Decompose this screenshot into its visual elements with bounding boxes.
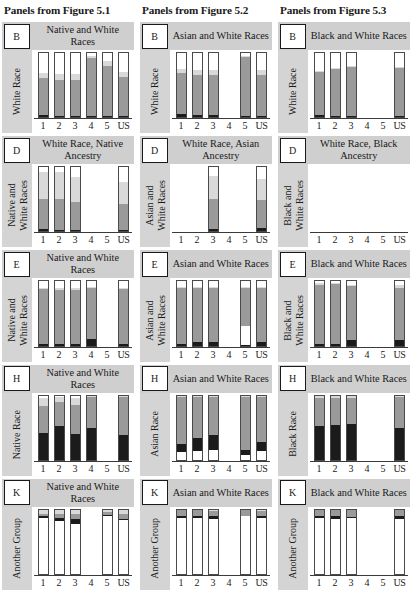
stacked-bar[interactable]: [86, 52, 97, 118]
stacked-bar[interactable]: [346, 52, 357, 118]
x-axis-ticks: 12345US: [172, 233, 270, 247]
stacked-bar[interactable]: [86, 280, 97, 346]
stacked-bar[interactable]: [346, 395, 357, 461]
stacked-bar[interactable]: [330, 509, 341, 575]
bar-segment-white: [347, 53, 356, 66]
x-tick-1: 1: [314, 119, 325, 133]
bar-segment-black: [257, 116, 266, 117]
bar-slot-4: [362, 395, 373, 461]
stacked-bar[interactable]: [54, 509, 65, 575]
x-axis-ticks: 12345US: [34, 119, 132, 133]
stacked-bar[interactable]: [70, 166, 81, 232]
stacked-bar[interactable]: [38, 166, 49, 232]
bar-segment-white: [119, 53, 128, 72]
stacked-bar[interactable]: [54, 395, 65, 461]
x-tick-5: 5: [102, 348, 113, 362]
bar-segment-light: [209, 176, 218, 199]
bar-slot-us: [256, 52, 267, 118]
stacked-bar[interactable]: [394, 52, 405, 118]
stacked-bar[interactable]: [102, 509, 113, 575]
stacked-bar[interactable]: [240, 280, 251, 346]
stacked-bar[interactable]: [70, 280, 81, 346]
stacked-bar[interactable]: [70, 395, 81, 461]
stacked-bar[interactable]: [192, 280, 203, 346]
bar-segment-light: [257, 179, 266, 200]
panel-title: Black and White Races: [310, 365, 411, 393]
x-tick-2: 2: [330, 462, 341, 476]
stacked-bar[interactable]: [330, 52, 341, 118]
stacked-bar[interactable]: [314, 395, 325, 461]
stacked-bar[interactable]: [208, 52, 219, 118]
x-tick-us: US: [394, 348, 405, 362]
stacked-bar[interactable]: [54, 166, 65, 232]
stacked-bar[interactable]: [256, 280, 267, 346]
stacked-bar[interactable]: [346, 509, 357, 575]
stacked-bar[interactable]: [330, 395, 341, 461]
bar-segment-black: [331, 425, 340, 460]
bar-slot-2: [54, 166, 65, 232]
stacked-bar[interactable]: [208, 509, 219, 575]
stacked-bar[interactable]: [394, 509, 405, 575]
bar-segment-gray: [395, 397, 404, 428]
stacked-bar[interactable]: [394, 280, 405, 346]
stacked-bar[interactable]: [346, 280, 357, 346]
stacked-bar[interactable]: [70, 509, 81, 575]
bar-segment-black: [103, 116, 112, 117]
stacked-bar[interactable]: [394, 395, 405, 461]
stacked-bar[interactable]: [70, 52, 81, 118]
bar-segment-black: [119, 116, 128, 117]
stacked-bar[interactable]: [176, 395, 187, 461]
stacked-bar[interactable]: [240, 509, 251, 575]
stacked-bar[interactable]: [208, 395, 219, 461]
stacked-bar[interactable]: [208, 166, 219, 232]
stacked-bar[interactable]: [192, 52, 203, 118]
bar-group: [310, 52, 408, 119]
stacked-bar[interactable]: [330, 280, 341, 346]
stacked-bar[interactable]: [314, 52, 325, 118]
bar-slot-1: [176, 509, 187, 575]
stacked-bar[interactable]: [192, 509, 203, 575]
stacked-bar[interactable]: [54, 52, 65, 118]
stacked-bar[interactable]: [176, 509, 187, 575]
plot-area: 12345US: [32, 164, 134, 247]
stacked-bar[interactable]: [192, 395, 203, 461]
stacked-bar[interactable]: [54, 280, 65, 346]
stacked-bar[interactable]: [118, 52, 129, 118]
x-tick-1: 1: [314, 462, 325, 476]
stacked-bar[interactable]: [314, 509, 325, 575]
x-tick-1: 1: [38, 119, 49, 133]
plot-wrapper: Another Group12345US: [140, 507, 272, 590]
stacked-bar[interactable]: [176, 52, 187, 118]
stacked-bar[interactable]: [256, 166, 267, 232]
bar-segment-white: [331, 53, 340, 68]
bar-segment-black: [39, 229, 48, 231]
stacked-bar[interactable]: [38, 52, 49, 118]
x-tick-4: 4: [362, 462, 373, 476]
stacked-bar[interactable]: [86, 395, 97, 461]
stacked-bar[interactable]: [38, 395, 49, 461]
stacked-bar[interactable]: [256, 395, 267, 461]
bar-slot-us: [118, 395, 129, 461]
x-tick-3: 3: [70, 233, 81, 247]
stacked-bar[interactable]: [38, 509, 49, 575]
bar-segment-black: [71, 230, 80, 231]
stacked-bar[interactable]: [176, 280, 187, 346]
stacked-bar[interactable]: [118, 509, 129, 575]
stacked-bar[interactable]: [256, 509, 267, 575]
stacked-bar[interactable]: [118, 280, 129, 346]
stacked-bar[interactable]: [38, 280, 49, 346]
stacked-bar[interactable]: [118, 166, 129, 232]
bar-slot-5: [240, 280, 251, 346]
x-tick-us: US: [256, 119, 267, 133]
stacked-bar[interactable]: [256, 52, 267, 118]
bar-segment-black: [71, 434, 80, 460]
y-axis-label: Asian and White Races: [140, 278, 170, 361]
plot-wrapper: Asian Race12345US: [140, 393, 272, 476]
stacked-bar[interactable]: [118, 395, 129, 461]
stacked-bar[interactable]: [240, 395, 251, 461]
stacked-bar[interactable]: [314, 280, 325, 346]
bar-segment-white-low: [119, 520, 128, 574]
stacked-bar[interactable]: [240, 52, 251, 118]
stacked-bar[interactable]: [208, 280, 219, 346]
stacked-bar[interactable]: [102, 52, 113, 118]
